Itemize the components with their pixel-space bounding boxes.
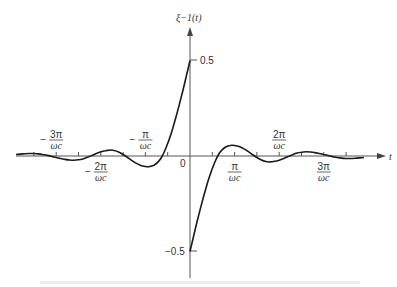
x-tick-label: 3πωc [317,161,331,183]
x-tick-label: 2πωc− [85,161,108,183]
x-tick-label: πωc [228,161,242,183]
caption-line [40,281,360,284]
tick-denominator: ωc [273,140,285,151]
tick-numerator: 2π [273,129,286,140]
tick-numerator: 3π [318,161,331,172]
curve-positive-t [190,145,364,251]
origin-label: 0 [180,158,186,169]
x-axis-label: t [389,151,392,162]
tick-denominator: ωc [318,172,330,183]
x-axis-arrow-icon [377,153,386,159]
ytick-label-0.5: 0.5 [200,55,214,66]
tick-numerator: π [231,161,238,172]
tick-denominator: ωc [229,172,241,183]
tick-denominator: ωc [95,172,107,183]
minus-sign: − [40,134,46,145]
x-tick-label: 3πωc− [40,129,63,151]
tick-numerator: 3π [50,129,63,140]
chart-plot: 0.5 −0.5 0 t ξ−1(t) 3πωc−2πωc−πωc−πωc2πω… [0,0,397,287]
minus-sign: − [130,134,136,145]
ytick-label-neg-0.5: −0.5 [165,246,185,257]
x-tick-label: 2πωc [272,129,286,151]
y-axis-arrow-icon [187,27,193,36]
tick-numerator: π [142,129,149,140]
tick-denominator: ωc [50,140,62,151]
curve-negative-t [16,61,190,167]
tick-denominator: ωc [140,140,152,151]
tick-numerator: 2π [95,161,108,172]
minus-sign: − [85,166,91,177]
x-tick-label: πωc− [130,129,153,151]
y-axis-label: ξ−1(t) [176,12,202,24]
